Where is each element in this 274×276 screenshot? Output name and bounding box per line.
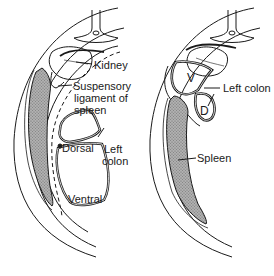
label-left-colon-right: Left colon bbox=[223, 82, 271, 94]
label-suspensory-3: spleen bbox=[74, 104, 106, 116]
label-suspensory-1: Suspensory bbox=[73, 80, 131, 92]
spinal-canal bbox=[93, 31, 99, 35]
left-panel bbox=[14, 8, 124, 257]
label-left-colon-1: Left bbox=[104, 143, 122, 155]
right-panel bbox=[150, 8, 260, 257]
label-d: D bbox=[200, 104, 209, 118]
label-kidney: Kidney bbox=[94, 59, 128, 71]
anatomy-diagram bbox=[0, 0, 274, 276]
label-dorsal: Dorsal bbox=[62, 142, 94, 154]
label-ventral: Ventral bbox=[68, 193, 102, 205]
spleen-left bbox=[29, 68, 53, 206]
label-suspensory-2: ligament of bbox=[74, 92, 128, 104]
label-spleen: Spleen bbox=[197, 152, 231, 164]
label-v: V bbox=[187, 71, 195, 85]
label-left-colon-2: colon bbox=[102, 155, 128, 167]
